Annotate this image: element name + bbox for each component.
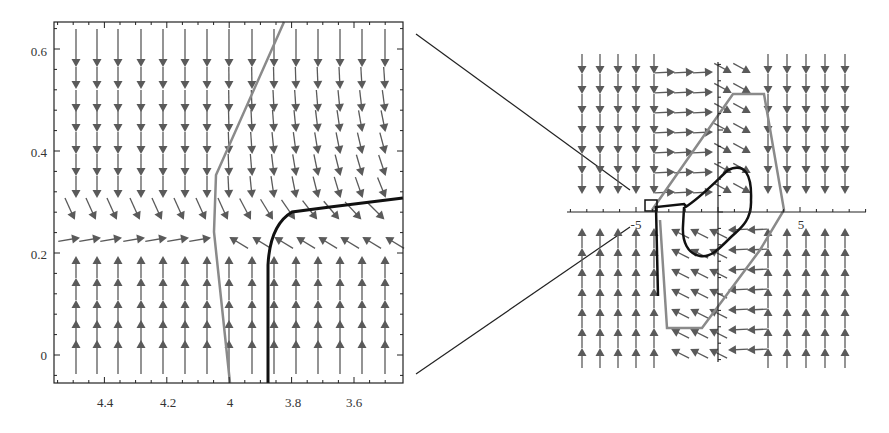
arrowhead-icon xyxy=(783,126,792,134)
arrowhead-icon xyxy=(269,104,278,112)
arrowhead-icon xyxy=(314,256,323,264)
arrowhead-icon xyxy=(578,66,587,74)
arrowhead-icon xyxy=(137,168,146,176)
arrowhead-icon xyxy=(159,146,168,154)
arrowhead-icon xyxy=(821,146,830,154)
arrowhead-icon xyxy=(614,308,623,316)
arrowhead-icon xyxy=(783,268,792,276)
arrowhead-icon xyxy=(159,300,168,308)
arrowhead-icon xyxy=(314,320,323,328)
arrowhead-icon xyxy=(93,340,102,348)
arrowhead-icon xyxy=(705,108,713,117)
arrowhead-icon xyxy=(632,186,641,194)
arrowhead-icon xyxy=(203,320,212,328)
arrowhead-icon xyxy=(72,190,81,198)
x-tick-label: 3.6 xyxy=(346,395,363,410)
arrowhead-icon xyxy=(269,189,278,198)
arrowhead-icon xyxy=(203,278,212,286)
arrowhead-icon xyxy=(596,348,605,356)
arrowhead-icon xyxy=(578,328,587,336)
figure: 4.4 4.2 4 3.8 3.6 0 0.2 0.4 0.6 -5 5 xyxy=(0,0,889,433)
arrowhead-icon xyxy=(614,348,623,356)
arrowhead-icon xyxy=(181,300,190,308)
left-vector-field xyxy=(58,29,404,374)
arrowhead-icon xyxy=(202,235,211,244)
arrowhead-icon xyxy=(841,146,850,154)
arrowhead-icon xyxy=(632,248,641,256)
arrowhead-icon xyxy=(614,166,623,174)
arrowhead-icon xyxy=(203,146,212,154)
arrowhead-icon xyxy=(248,59,257,67)
arrowhead-icon xyxy=(686,68,694,77)
arrowhead-icon xyxy=(290,189,299,198)
arrowhead-icon xyxy=(270,300,279,308)
arrowhead-icon xyxy=(72,320,81,328)
arrowhead-icon xyxy=(381,300,390,308)
arrowhead-icon xyxy=(248,278,257,286)
arrowhead-icon xyxy=(841,288,850,296)
arrowhead-icon xyxy=(650,348,659,356)
arrowhead-icon xyxy=(224,124,233,132)
arrowhead-icon xyxy=(137,81,146,89)
arrowhead-icon xyxy=(225,59,234,67)
arrowhead-icon xyxy=(181,320,190,328)
arrowhead-icon xyxy=(802,288,811,296)
arrowhead-icon xyxy=(313,104,322,112)
arrowhead-icon xyxy=(381,256,390,264)
arrowhead-icon xyxy=(137,190,146,198)
arrowhead-icon xyxy=(114,124,123,132)
arrowhead-icon xyxy=(291,145,300,154)
arrowhead-icon xyxy=(334,167,343,176)
arrowhead-icon xyxy=(114,340,123,348)
arrowhead-icon xyxy=(596,146,605,154)
arrowhead-icon xyxy=(705,68,713,77)
arrowhead-icon xyxy=(72,168,81,176)
arrowhead-icon xyxy=(72,256,81,264)
arrowhead-icon xyxy=(632,268,641,276)
arrowhead-icon xyxy=(381,320,390,328)
arrowhead-icon xyxy=(248,256,257,264)
arrowhead-icon xyxy=(578,106,587,114)
arrowhead-icon xyxy=(314,300,323,308)
arrowhead-icon xyxy=(114,190,123,198)
arrowhead-icon xyxy=(313,81,322,89)
arrowhead-icon xyxy=(358,320,367,328)
arrowhead-icon xyxy=(269,167,278,175)
arrowhead-icon xyxy=(596,126,605,134)
arrowhead-icon xyxy=(313,123,322,131)
arrowhead-icon xyxy=(93,124,102,132)
arrowhead-icon xyxy=(381,59,390,67)
arrowhead-icon xyxy=(158,235,167,244)
arrowhead-icon xyxy=(247,104,256,112)
arrowhead-icon xyxy=(841,308,850,316)
arrowhead-icon xyxy=(379,123,388,132)
arrowhead-icon xyxy=(314,340,323,348)
arrowhead-icon xyxy=(225,256,234,264)
arrowhead-icon xyxy=(728,345,736,354)
arrowhead-icon xyxy=(292,320,301,328)
arrowhead-icon xyxy=(203,190,212,198)
arrowhead-icon xyxy=(783,106,792,114)
arrowhead-icon xyxy=(614,186,623,194)
arrowhead-icon xyxy=(72,300,81,308)
arrowhead-icon xyxy=(728,325,736,334)
arrowhead-icon xyxy=(181,256,190,264)
arrowhead-icon xyxy=(291,81,300,89)
arrowhead-icon xyxy=(596,228,605,236)
arrowhead-icon xyxy=(802,166,811,174)
arrowhead-icon xyxy=(841,66,850,74)
arrowhead-icon xyxy=(596,288,605,296)
arrowhead-icon xyxy=(181,81,190,89)
arrowhead-icon xyxy=(821,268,830,276)
arrowhead-icon xyxy=(136,235,145,244)
arrowhead-icon xyxy=(632,66,641,74)
arrowhead-icon xyxy=(802,186,811,194)
arrowhead-icon xyxy=(578,248,587,256)
arrowhead-icon xyxy=(614,228,623,236)
arrowhead-icon xyxy=(224,81,233,89)
arrowhead-icon xyxy=(225,278,234,286)
arrowhead-icon xyxy=(159,320,168,328)
arrowhead-icon xyxy=(334,189,343,198)
arrowhead-icon xyxy=(292,278,301,286)
arrowhead-icon xyxy=(596,186,605,194)
